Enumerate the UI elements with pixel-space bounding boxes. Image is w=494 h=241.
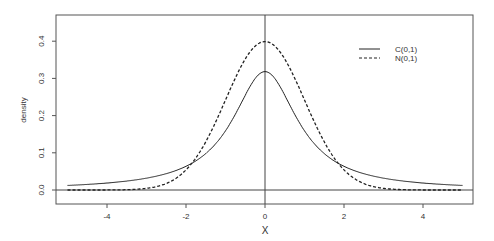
x-tick-label: 0 bbox=[263, 212, 268, 221]
density-chart: -4-20240.00.10.20.30.4 C(0,1)N(0,1) X de… bbox=[0, 0, 494, 241]
legend-label: C(0,1) bbox=[395, 45, 418, 54]
legend-label: N(0,1) bbox=[395, 54, 418, 63]
y-tick-label: 0.4 bbox=[37, 35, 46, 47]
axes: -4-20240.00.10.20.30.4 bbox=[37, 35, 426, 221]
x-tick-label: 2 bbox=[342, 212, 347, 221]
y-tick-label: 0.0 bbox=[37, 184, 46, 196]
x-tick-label: -2 bbox=[182, 212, 190, 221]
y-tick-label: 0.2 bbox=[37, 109, 46, 121]
x-axis-label: X bbox=[262, 225, 269, 236]
x-tick-label: 4 bbox=[421, 212, 426, 221]
x-tick-label: -4 bbox=[103, 212, 111, 221]
y-tick-label: 0.3 bbox=[37, 72, 46, 84]
y-tick-label: 0.1 bbox=[37, 147, 46, 159]
legend: C(0,1)N(0,1) bbox=[359, 45, 418, 63]
y-axis-label: density bbox=[19, 97, 28, 122]
reference-lines bbox=[56, 15, 473, 204]
